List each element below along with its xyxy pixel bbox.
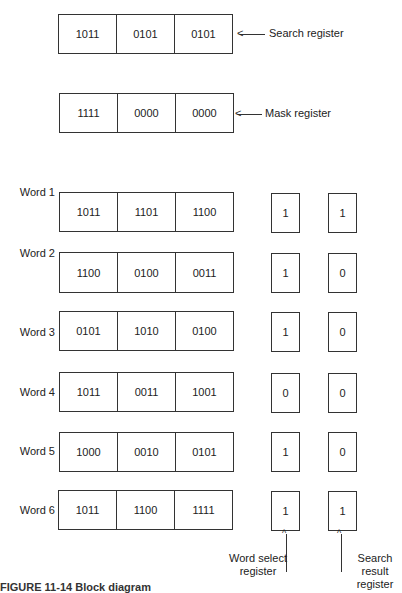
- word-register: 0101 1010 0100: [59, 311, 234, 351]
- word-label: Word 1: [5, 186, 55, 198]
- word-field: 0010: [118, 433, 176, 471]
- word-field: 0101: [60, 312, 118, 350]
- word-label: Word 6: [5, 504, 55, 516]
- word-select-bit: 1: [271, 193, 300, 233]
- word-field: 1010: [118, 312, 176, 350]
- word-field: 1011: [59, 491, 117, 529]
- word-field: 0101: [176, 433, 233, 471]
- mask-field-2: 0000: [118, 94, 176, 132]
- word-field: 1011: [60, 373, 118, 411]
- word-register: 1011 1100 1111: [58, 490, 233, 530]
- word-label: Word 3: [5, 326, 55, 338]
- search-field-2: 0101: [117, 15, 175, 53]
- word-field: 1100: [176, 193, 233, 231]
- search-result-bit: 0: [328, 373, 357, 413]
- arrowhead-up-icon: ^: [337, 528, 341, 538]
- search-result-register-label: Search result register: [344, 552, 402, 591]
- search-register-label: Search register: [269, 27, 344, 39]
- word-select-bit: 1: [271, 491, 300, 531]
- word-field: 1000: [60, 433, 118, 471]
- word-field: 1100: [117, 491, 175, 529]
- arrowhead-left-icon: <: [235, 107, 241, 119]
- mask-field-3: 0000: [176, 94, 233, 132]
- search-result-bit: 1: [328, 491, 357, 531]
- mask-register: 1111 0000 0000: [59, 93, 234, 133]
- word-field: 1011: [60, 193, 118, 231]
- word-select-bit: 0: [271, 373, 300, 413]
- word-field: 1100: [60, 253, 118, 292]
- word-register: 1100 0100 0011: [59, 252, 234, 293]
- word-field: 0100: [176, 312, 233, 350]
- arrowhead-left-icon: <: [237, 27, 243, 39]
- search-result-bit: 0: [328, 312, 357, 352]
- search-result-bit: 1: [328, 193, 357, 233]
- search-field-1: 1011: [59, 15, 117, 53]
- search-register: 1011 0101 0101: [58, 14, 233, 54]
- word-register: 1011 1101 1100: [59, 192, 234, 232]
- word-select-bit: 1: [271, 253, 300, 293]
- word-select-bit: 1: [271, 432, 300, 472]
- search-result-arrow: [341, 534, 342, 572]
- word-field: 0100: [118, 253, 176, 292]
- mask-field-1: 1111: [60, 94, 118, 132]
- word-select-register-label: Word select register: [225, 552, 291, 578]
- word-label: Word 4: [5, 386, 55, 398]
- search-register-arrow: [240, 34, 265, 35]
- search-result-bit: 0: [328, 432, 357, 472]
- word-field: 0011: [118, 373, 176, 411]
- word-field: 1001: [176, 373, 233, 411]
- word-field: 1111: [175, 491, 232, 529]
- word-field: 0011: [176, 253, 233, 292]
- word-register: 1000 0010 0101: [59, 432, 234, 472]
- search-result-bit: 0: [328, 253, 357, 293]
- word-register: 1011 0011 1001: [59, 372, 234, 412]
- search-field-3: 0101: [175, 15, 232, 53]
- word-field: 1101: [118, 193, 176, 231]
- word-label: Word 5: [5, 445, 55, 457]
- figure-caption: FIGURE 11-14 Block diagram: [0, 581, 151, 593]
- mask-register-arrow: [238, 114, 262, 115]
- word-select-bit: 1: [271, 312, 300, 352]
- word-label: Word 2: [5, 247, 55, 259]
- mask-register-label: Mask register: [265, 107, 331, 119]
- arrowhead-up-icon: ^: [282, 528, 286, 538]
